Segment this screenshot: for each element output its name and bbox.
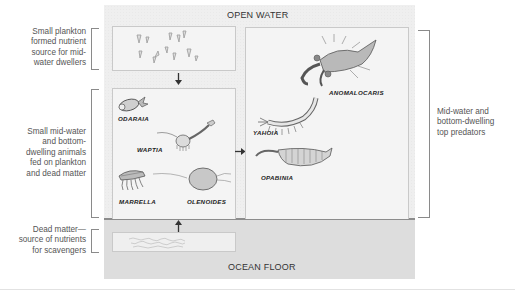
- arrow-up-icon: [174, 220, 183, 232]
- marrella-icon: [115, 166, 149, 194]
- predators-bracket: [418, 30, 430, 218]
- zone-label-ocean-floor: OCEAN FLOOR: [228, 262, 296, 272]
- creature-label: OPABINIA: [261, 174, 293, 181]
- dead-matter-icon: [113, 233, 235, 251]
- creature-label: MARRELLA: [119, 198, 156, 205]
- anomalocaris-icon: [296, 34, 386, 90]
- plankton-bracket: [91, 28, 99, 70]
- arrow-down-icon: [174, 73, 183, 86]
- zone-label-open-water: OPEN WATER: [227, 10, 289, 20]
- creature-label: YAHOIA: [253, 129, 278, 136]
- dead-matter-box: [112, 232, 236, 252]
- bottom-divider: [0, 289, 515, 290]
- note-predators: Mid-water and bottom-dwelling top predat…: [437, 107, 515, 138]
- creature-label: WAPTIA: [137, 146, 163, 153]
- olenoides-icon: [151, 164, 233, 194]
- dead-matter-bracket: [91, 229, 99, 253]
- opabinia-icon: [254, 142, 336, 172]
- creature-label: ODARAIA: [118, 115, 149, 122]
- top-predators-box: ANOMALOCARIS YAHOIA OPABINIA: [245, 27, 409, 219]
- note-dead-matter: Dead matter— source of nutrients for sca…: [0, 225, 86, 256]
- odaraia-icon: [117, 95, 149, 113]
- creature-label: ANOMALOCARIS: [329, 89, 384, 96]
- plankton-icon: [113, 27, 235, 70]
- small-animals-bracket: [91, 89, 99, 218]
- note-plankton: Small plankton formed nutrient source fo…: [0, 27, 86, 69]
- note-small-animals: Small mid-water and bottom- dwelling ani…: [0, 127, 86, 179]
- creature-label: OLENOIDES: [187, 198, 226, 205]
- waptia-icon: [155, 117, 221, 151]
- plankton-box: [112, 26, 236, 71]
- small-animals-box: ODARAIA WAPTIA MARRELLA OLENOIDES: [112, 88, 236, 219]
